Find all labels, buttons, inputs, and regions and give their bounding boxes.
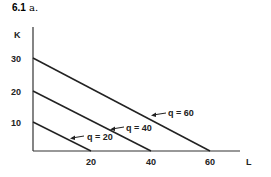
x-tick-40: 40: [146, 157, 156, 167]
x-axis-label: L: [246, 157, 252, 167]
y-tick-20: 20: [11, 87, 21, 97]
x-tick-60: 60: [205, 157, 215, 167]
y-tick-10: 10: [11, 118, 21, 128]
label-q40: q = 40: [110, 123, 152, 133]
y-tick-30: 30: [11, 54, 21, 64]
line-q40: [33, 91, 151, 151]
svg-text:q = 60: q = 60: [168, 108, 194, 118]
y-axis-label: K: [14, 30, 21, 40]
label-q20: q = 20: [70, 132, 113, 142]
label-q60: q = 60: [151, 108, 194, 118]
svg-text:q = 40: q = 40: [126, 123, 152, 133]
x-tick-20: 20: [86, 157, 96, 167]
svg-text:q = 20: q = 20: [87, 132, 113, 142]
isoquant-chart: K L 30 20 10 20 40 60 q = 20 q = 40 q = …: [0, 0, 271, 177]
